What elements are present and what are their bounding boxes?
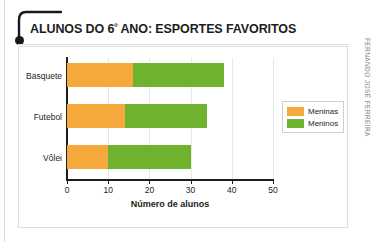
x-axis-tick — [191, 180, 192, 184]
bar-segment-meninas — [67, 104, 125, 128]
x-axis-tick — [67, 180, 68, 184]
legend-label-meninos: Meninos — [308, 119, 338, 128]
x-axis-line — [66, 179, 274, 181]
page-edge-rule — [4, 0, 5, 242]
x-axis-tick-label: 40 — [227, 185, 236, 195]
chart-legend: Meninas Meninos — [282, 101, 344, 133]
title-divider — [18, 44, 348, 45]
x-axis-tick-label: 30 — [186, 185, 195, 195]
x-axis-tick-label: 10 — [103, 185, 112, 195]
chart-title-suffix: ANO: ESPORTES FAVORITOS — [118, 22, 297, 36]
category-label: Basquete — [6, 71, 62, 81]
bar-segment-meninas — [67, 63, 133, 87]
bar-segment-meninas — [67, 145, 108, 169]
bar-segment-meninos — [133, 63, 224, 87]
legend-item-meninas: Meninas — [287, 105, 338, 117]
category-label: Vôlei — [6, 153, 62, 163]
x-axis-tick-label: 0 — [65, 185, 70, 195]
chart-title: ALUNOS DO 6º ANO: ESPORTES FAVORITOS — [30, 22, 296, 36]
legend-item-meninos: Meninos — [287, 117, 338, 129]
x-axis-tick-label: 20 — [145, 185, 154, 195]
x-axis-tick — [273, 180, 274, 184]
legend-label-meninas: Meninas — [308, 107, 338, 116]
image-credit: FERNANDO JOSÉ FERREIRA — [364, 38, 371, 137]
bar-segment-meninos — [125, 104, 207, 128]
gridline — [273, 58, 274, 179]
bar-segment-meninos — [108, 145, 190, 169]
x-axis-title: Número de alunos — [67, 199, 273, 209]
category-label: Futebol — [6, 112, 62, 122]
figure-container: ALUNOS DO 6º ANO: ESPORTES FAVORITOS 010… — [0, 0, 386, 242]
gridline — [232, 58, 233, 179]
x-axis-tick — [232, 180, 233, 184]
legend-swatch-meninas — [287, 107, 304, 116]
x-axis-tick-label: 50 — [268, 185, 277, 195]
chart-title-prefix: ALUNOS DO 6 — [30, 22, 114, 36]
x-axis-tick — [149, 180, 150, 184]
x-axis-tick — [108, 180, 109, 184]
legend-swatch-meninos — [287, 119, 304, 128]
